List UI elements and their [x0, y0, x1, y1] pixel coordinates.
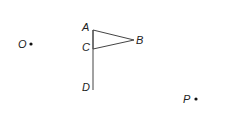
label-o: O	[18, 38, 27, 50]
label-d: D	[82, 81, 90, 93]
point-p-dot	[194, 97, 197, 100]
label-c: C	[82, 41, 90, 53]
label-a: A	[81, 21, 89, 33]
flag-triangle-abc	[93, 30, 134, 49]
flag-diagram: A B C D O P	[0, 0, 226, 126]
point-o-dot	[29, 42, 32, 45]
label-p: P	[183, 93, 191, 105]
label-b: B	[136, 34, 143, 46]
